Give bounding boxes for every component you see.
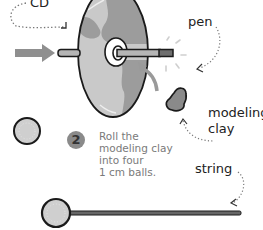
step-line: into four	[99, 154, 173, 166]
string-icon	[68, 211, 241, 215]
step-number-badge: 2	[67, 131, 85, 149]
cd-label: CD	[30, 0, 49, 10]
pen-label: pen	[188, 14, 213, 29]
step-instructions: Roll the modeling clay into four 1 cm ba…	[99, 130, 173, 178]
step-line: modeling clay	[99, 142, 173, 154]
diagram-canvas: CD pen modeling clay string 2 Roll the m…	[0, 0, 263, 230]
cd-leader-arrowhead-icon	[61, 22, 66, 28]
step-line: Roll the	[99, 130, 173, 142]
clay-ball-icon	[42, 199, 70, 227]
string-leader-arrow	[233, 172, 244, 203]
clay-ball-icon	[14, 118, 40, 144]
modeling-clay-label-line2: clay	[208, 121, 234, 136]
string-label: string	[195, 161, 232, 176]
pen-leader-arrow	[200, 27, 220, 68]
arrow-right-icon	[15, 44, 55, 62]
modeling-clay-icon	[166, 88, 186, 111]
step-line: 1 cm balls.	[99, 166, 173, 178]
modeling-clay-label-line1: modeling	[208, 105, 263, 120]
